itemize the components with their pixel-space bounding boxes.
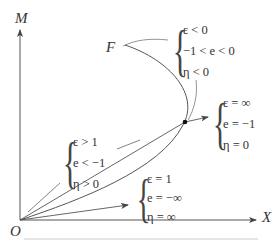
condition-line: ε < 0 [183, 24, 235, 37]
leader-F [123, 39, 168, 46]
brace-icon: { [213, 97, 220, 151]
brace-icon: { [137, 173, 144, 223]
condition-line: e = −∞ [147, 192, 182, 205]
leader-hyperbolic-2 [117, 140, 140, 149]
condition-line: η = 0 [223, 139, 255, 152]
y-axis-label: M [15, 11, 28, 26]
condition-line: e < −1 [73, 157, 105, 170]
point-F-label: F [106, 40, 115, 55]
intersection-point [183, 120, 188, 125]
condition-infinite: { ε = ∞ e = −1 η = 0 [210, 97, 255, 151]
condition-line: η < 0 [183, 66, 235, 79]
x-axis-label: X [262, 210, 271, 225]
condition-line: ε > 1 [73, 136, 105, 149]
ray-parabolic [20, 205, 128, 220]
condition-hyperbolic: { ε > 1 e < −1 η > 0 [60, 136, 105, 190]
condition-line: ε = 1 [147, 173, 182, 186]
leader-ellipse [188, 80, 197, 120]
origin-label: O [10, 224, 21, 239]
condition-line: η > 0 [73, 178, 105, 191]
condition-line: −1 < e < 0 [183, 45, 235, 58]
brace-icon: { [63, 136, 70, 190]
condition-line: e = −1 [223, 118, 255, 131]
condition-line: ε = ∞ [223, 97, 255, 110]
brace-icon: { [173, 24, 180, 78]
condition-ellipse: { ε < 0 −1 < e < 0 η < 0 [170, 24, 235, 78]
condition-line: η = ∞ [147, 211, 182, 224]
condition-parabolic: { ε = 1 e = −∞ η = ∞ [134, 173, 182, 223]
